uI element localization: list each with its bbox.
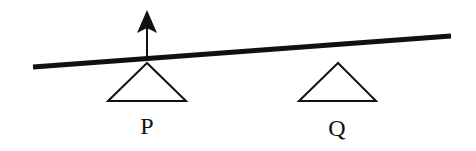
support-label-p: P [140, 113, 153, 139]
background [0, 0, 476, 151]
support-label-q: Q [328, 115, 345, 141]
beam-diagram: P Q [0, 0, 476, 151]
